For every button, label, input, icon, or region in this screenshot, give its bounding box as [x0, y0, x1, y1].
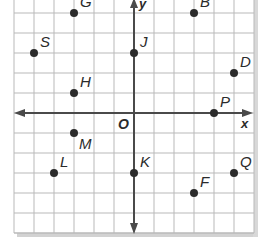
point-label: F — [200, 173, 210, 190]
point-label: L — [60, 153, 68, 170]
coordinate-plane: x y O GBSJDHPMLKQF — [0, 0, 264, 244]
point-dot — [190, 9, 198, 17]
point-dot — [210, 109, 218, 117]
point-dot — [70, 89, 78, 97]
point-dot — [230, 69, 238, 77]
y-axis-label: y — [138, 0, 147, 11]
point-label: J — [139, 33, 148, 50]
point-dot — [50, 169, 58, 177]
point-label: S — [40, 33, 50, 50]
point-dot — [130, 49, 138, 57]
point-dot — [130, 169, 138, 177]
point-label: P — [220, 93, 230, 110]
point-label: M — [79, 135, 92, 152]
point-dot — [70, 9, 78, 17]
origin-label: O — [118, 116, 129, 132]
point-dot — [30, 49, 38, 57]
point-label: K — [140, 153, 151, 170]
point-dot — [230, 169, 238, 177]
point-label: B — [200, 0, 210, 10]
point-label: H — [80, 73, 91, 90]
x-axis-label: x — [240, 116, 249, 131]
point-label: D — [240, 53, 251, 70]
point-dot — [190, 189, 198, 197]
point-dot — [70, 129, 78, 137]
point-label: G — [80, 0, 92, 10]
point-label: Q — [240, 153, 252, 170]
